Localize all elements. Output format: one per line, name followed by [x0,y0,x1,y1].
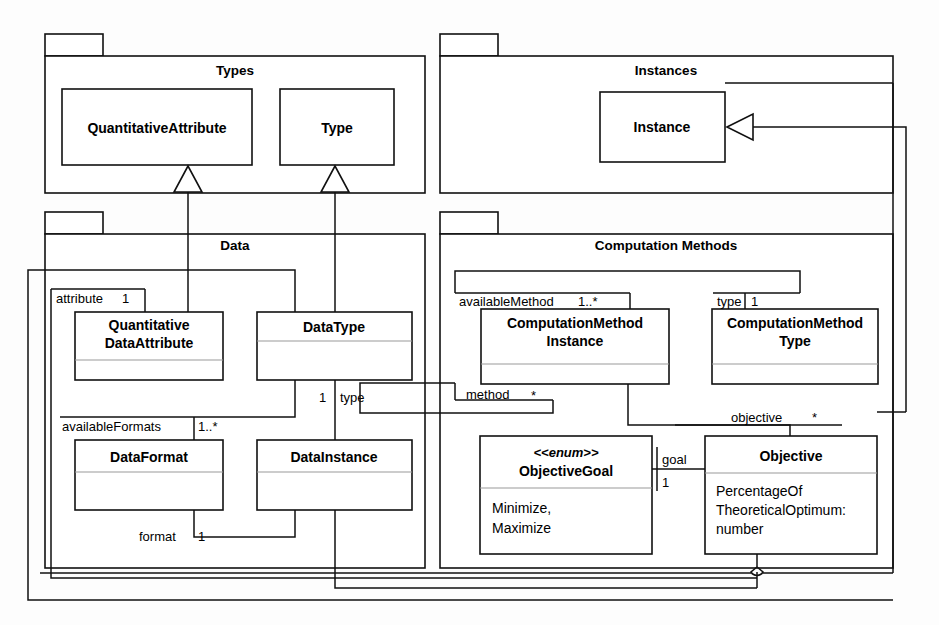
enum-value-maximize: Maximize [492,520,551,536]
class-dataformat: DataFormat [75,440,223,510]
class-name-quantitative-data-attribute-line2: DataAttribute [105,335,194,351]
class-name-datatype: DataType [303,319,365,335]
class-name-quantitative-data-attribute-line1: Quantitative [109,317,190,333]
class-name-instance: Instance [634,119,691,135]
class-type: Type [280,89,394,165]
class-name-computation-method-instance-line2: Instance [547,333,604,349]
class-datainstance: DataInstance [257,440,412,510]
attribute-objective-line2: TheoreticalOptimum: [716,502,846,518]
association-multiplicity-type-data: 1 [319,390,326,405]
class-computation-method-instance: ComputationMethod Instance [481,309,669,384]
class-name-type: Type [321,120,353,136]
class-name-objective: Objective [759,448,822,464]
class-name-objective-goal: ObjectiveGoal [519,463,613,479]
association-role-objective: objective [731,410,782,425]
association-role-format: format [139,529,176,544]
association-multiplicity-method: * [531,388,536,403]
association-multiplicity-format: 1 [198,529,205,544]
package-data: Data [45,212,425,568]
class-name-computation-method-type-line1: ComputationMethod [727,315,863,331]
class-quantitative-attribute: QuantitativeAttribute [62,89,252,165]
class-objective-goal: <<enum>> ObjectiveGoal Minimize, Maximiz… [480,436,652,554]
association-role-available-method: availableMethod [459,294,554,309]
association-multiplicity-available-formats: 1..* [198,419,218,434]
class-stereotype-objective-goal: <<enum>> [533,445,598,460]
uml-class-diagram: Types QuantitativeAttribute Type Instanc… [0,0,939,625]
package-label-data: Data [220,238,250,253]
association-multiplicity-available-method: 1..* [578,294,598,309]
package-tab-types [45,34,103,56]
class-objective: Objective PercentageOf TheoreticalOptimu… [705,436,877,554]
association-multiplicity-attribute: 1 [122,291,129,306]
package-tab-instances [440,34,498,56]
association-multiplicity-goal: 1 [662,475,669,490]
package-label-instances: Instances [635,63,697,78]
package-label-computation-methods: Computation Methods [595,238,737,253]
association-role-type-data: type [340,390,365,405]
class-datatype: DataType [257,312,412,380]
enum-value-minimize: Minimize, [492,500,551,516]
association-role-method: method [466,387,509,402]
class-name-computation-method-type-line2: Type [779,333,811,349]
package-tab-data [45,212,103,234]
association-role-type-methods: type [717,294,742,309]
association-multiplicity-objective: * [812,410,817,425]
class-name-datainstance: DataInstance [290,449,377,465]
class-name-computation-method-instance-line1: ComputationMethod [507,315,643,331]
association-role-goal: goal [662,452,687,467]
package-body-data [45,234,425,568]
association-multiplicity-type-methods: 1 [751,294,758,309]
association-role-attribute: attribute [56,291,103,306]
package-label-types: Types [216,63,254,78]
class-computation-method-type: ComputationMethod Type [712,309,878,384]
class-name-dataformat: DataFormat [110,449,188,465]
class-quantitative-data-attribute: Quantitative DataAttribute [75,312,223,380]
attribute-objective-line1: PercentageOf [716,483,802,499]
attribute-objective-line3: number [716,521,764,537]
diagram-canvas: Types QuantitativeAttribute Type Instanc… [0,0,939,625]
class-instance: Instance [600,92,725,162]
association-role-available-formats: availableFormats [62,419,161,434]
package-tab-computation-methods [440,212,498,234]
class-name-quantitative-attribute: QuantitativeAttribute [87,120,226,136]
